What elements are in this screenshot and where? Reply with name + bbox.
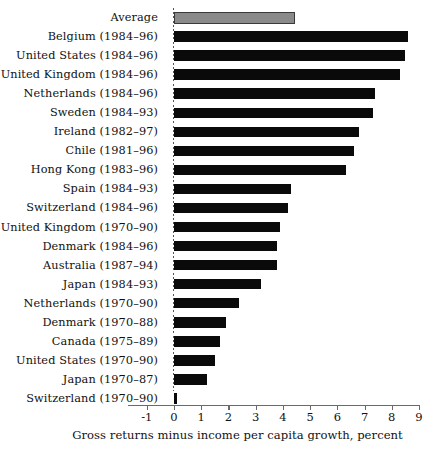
bar-track (174, 65, 400, 84)
bar-track (174, 237, 277, 256)
bar (174, 146, 354, 157)
bar-row: Hong Kong (1983–96) (0, 160, 433, 179)
bar-average (174, 12, 295, 24)
category-label: Ireland (1982–97) (0, 125, 166, 138)
bar-row: Spain (1984–93) (0, 179, 433, 198)
bar-row: Denmark (1970–88) (0, 313, 433, 332)
category-label: Hong Kong (1983–96) (0, 163, 166, 176)
bar-track (174, 313, 226, 332)
bar-row: Canada (1975–89) (0, 332, 433, 351)
x-axis-tick-label: 2 (225, 410, 232, 424)
category-label: United States (1984–96) (0, 49, 166, 62)
bar-track (174, 84, 375, 103)
bar-row: United Kingdom (1984–96) (0, 65, 433, 84)
category-label: Chile (1981–96) (0, 144, 166, 157)
bar-row: Switzerland (1984–96) (0, 198, 433, 217)
bar (174, 355, 215, 366)
category-label: Australia (1987–94) (0, 259, 166, 272)
bar (174, 393, 177, 404)
bar-track (174, 198, 288, 217)
x-axis-tick-label: -1 (141, 410, 152, 424)
bar-track (174, 122, 359, 141)
bar-row: Average (0, 8, 433, 27)
bar (174, 374, 207, 385)
bar (174, 260, 277, 271)
bar-row: Denmark (1984–96) (0, 237, 433, 256)
x-axis-tick-label: 6 (334, 410, 341, 424)
bar (174, 88, 375, 99)
bar-rows: AverageBelgium (1984–96)United States (1… (0, 8, 433, 408)
bar-track (174, 332, 220, 351)
category-label: Spain (1984–93) (0, 182, 166, 195)
bar (174, 127, 359, 138)
x-axis-tick-label: 9 (415, 410, 422, 424)
bar-track (174, 370, 207, 389)
x-axis-title-text: Gross returns minus income per capita gr… (30, 428, 403, 442)
x-axis-tick-label: 8 (388, 410, 395, 424)
bar-track (174, 8, 295, 27)
x-axis-title: Gross returns minus income per capita gr… (0, 428, 433, 442)
bar-row: Australia (1987–94) (0, 256, 433, 275)
bar (174, 165, 346, 176)
x-axis-tick-label: 0 (170, 410, 177, 424)
bar-track (174, 103, 373, 122)
category-label: Netherlands (1984–96) (0, 87, 166, 100)
bar-row: Ireland (1982–97) (0, 122, 433, 141)
category-label: Denmark (1970–88) (0, 316, 166, 329)
bar-track (174, 160, 346, 179)
category-label: United Kingdom (1970–90) (0, 221, 166, 234)
category-label: United States (1970–90) (0, 354, 166, 367)
x-axis-tick-label: 7 (361, 410, 368, 424)
category-label: Switzerland (1984–96) (0, 201, 166, 214)
bar-row: Japan (1970–87) (0, 370, 433, 389)
x-axis-tick-label: 4 (279, 410, 286, 424)
category-label: Netherlands (1970–90) (0, 297, 166, 310)
bar-track (174, 27, 408, 46)
bar-track (174, 256, 277, 275)
bar-row: United Kingdom (1970–90) (0, 218, 433, 237)
bar-track (174, 294, 239, 313)
bar-row: Sweden (1984–93) (0, 103, 433, 122)
bar (174, 69, 400, 80)
bar (174, 31, 408, 42)
category-label: Denmark (1984–96) (0, 240, 166, 253)
bar-row: Chile (1981–96) (0, 141, 433, 160)
bar (174, 241, 277, 252)
bar-track (174, 46, 405, 65)
horizontal-bar-chart: AverageBelgium (1984–96)United States (1… (0, 0, 433, 452)
bar-row: United States (1984–96) (0, 46, 433, 65)
category-label: Japan (1984–93) (0, 278, 166, 291)
bar (174, 184, 291, 195)
x-axis-tick-label: 3 (252, 410, 259, 424)
bar (174, 203, 288, 214)
category-label: Sweden (1984–93) (0, 106, 166, 119)
bar-track (174, 179, 291, 198)
bar-track (174, 141, 354, 160)
bar-track (174, 218, 280, 237)
bar-track (174, 275, 261, 294)
bar (174, 336, 220, 347)
bar-row: United States (1970–90) (0, 351, 433, 370)
bar-row: Netherlands (1984–96) (0, 84, 433, 103)
category-label: Japan (1970–87) (0, 373, 166, 386)
category-label: Average (0, 11, 166, 24)
bar (174, 108, 373, 119)
bar-row: Netherlands (1970–90) (0, 294, 433, 313)
category-label: United Kingdom (1984–96) (0, 68, 166, 81)
category-label: Canada (1975–89) (0, 335, 166, 348)
bar (174, 298, 239, 309)
bar-row: Belgium (1984–96) (0, 27, 433, 46)
bar (174, 317, 226, 328)
x-axis-line (128, 405, 420, 406)
x-axis-tick-label: 1 (198, 410, 205, 424)
category-label: Belgium (1984–96) (0, 30, 166, 43)
bar-track (174, 351, 215, 370)
bar (174, 222, 280, 233)
bar (174, 279, 261, 290)
bar (174, 50, 405, 61)
x-axis-tick-label: 5 (306, 410, 313, 424)
category-label: Switzerland (1970–90) (0, 392, 166, 405)
bar-row: Japan (1984–93) (0, 275, 433, 294)
